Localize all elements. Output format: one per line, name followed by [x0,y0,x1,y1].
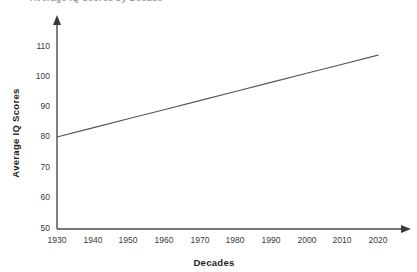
y-tick-110: 110 [36,41,50,51]
x-tick-1960: 1960 [155,235,174,245]
y-tick-80: 80 [41,131,51,141]
y-axis-title: Average IQ Scores [10,88,21,177]
x-axis-arrow-icon [401,225,411,233]
chart-container: Average IQ Scores by Decade 110 100 90 8… [0,0,417,272]
y-tick-70: 70 [41,162,51,172]
x-tick-2020: 2020 [369,235,388,245]
line-chart: 110 100 90 80 70 60 50 1930 1940 1950 19… [0,0,417,272]
y-axis-arrow-icon [53,15,61,25]
x-tick-1940: 1940 [84,235,103,245]
y-tick-60: 60 [41,192,51,202]
y-axis-tick-labels: 110 100 90 80 70 60 50 [36,41,50,233]
x-tick-1930: 1930 [48,235,67,245]
x-axis-tick-labels: 1930 1940 1950 1960 1970 1980 1990 2000 … [48,235,388,245]
y-tick-100: 100 [36,71,50,81]
y-tick-50: 50 [41,223,51,233]
x-axis-title: Decades [193,257,234,268]
series-line-average-iq-score [57,55,378,137]
y-tick-90: 90 [41,101,51,111]
x-tick-1990: 1990 [262,235,281,245]
x-tick-1950: 1950 [119,235,138,245]
x-tick-1970: 1970 [191,235,210,245]
x-tick-2010: 2010 [333,235,352,245]
data-series-group [57,55,378,137]
x-tick-2000: 2000 [298,235,317,245]
x-tick-1980: 1980 [226,235,245,245]
